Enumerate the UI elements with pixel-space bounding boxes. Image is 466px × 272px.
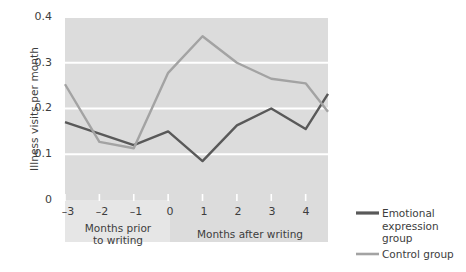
x-tick-label-6: 3 (259, 205, 285, 218)
y-tick-label-1: 0.3 (20, 56, 52, 69)
x-band-label-prior-line2: to writing (63, 234, 173, 246)
x-tick-label-0: –3 (55, 205, 81, 218)
legend-swatches (356, 213, 379, 254)
y-tick-label-2: 0.2 (20, 101, 52, 114)
x-tick-label-7: 4 (293, 205, 319, 218)
y-tick-label-3: 0.1 (20, 147, 52, 160)
x-tick-label-4: 1 (191, 205, 217, 218)
legend-label-control-group: Control group (382, 248, 454, 261)
x-tick-label-2: –1 (123, 205, 149, 218)
x-tick-label-5: 2 (225, 205, 251, 218)
legend-label-emotional-expression-group: Emotional expression group (382, 207, 466, 245)
x-tick-label-3: 0 (157, 205, 183, 218)
x-band-label-after: Months after writing (172, 228, 328, 240)
x-tick-label-1: –2 (89, 205, 115, 218)
y-tick-label-0: 0.4 (20, 10, 52, 23)
line-chart-figure: Illness visits per month 0.4 0.3 0.2 0.1… (0, 0, 466, 272)
x-band-label-prior-line1: Months prior (63, 222, 173, 234)
y-tick-label-4: 0 (20, 193, 52, 206)
